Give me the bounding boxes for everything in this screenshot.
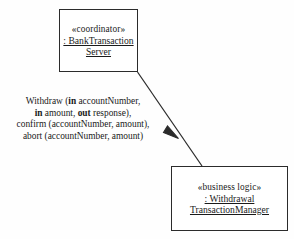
param-direction-out: out [78,108,91,118]
uml-collaboration-diagram: «coordinator» : BankTransaction Server «… [0,0,294,239]
instance-name-coordinator-line2: Server [86,46,111,57]
instance-name-coordinator-line1: : BankTransaction [63,35,133,46]
instance-name-business-logic-line1: : Withdrawal [205,193,255,204]
stereotype-label-business-logic: «business logic» [198,182,261,193]
stereotype-label-coordinator: «coordinator» [72,24,125,35]
message-line-abort: abort (accountNumber, amount) [4,131,162,143]
message-text-response: response), [91,108,132,118]
message-text-amount: amount, [43,108,78,118]
message-line-withdraw: Withdraw (in accountNumber, [4,96,162,108]
param-direction-in-2: in [35,108,43,118]
message-line-withdraw-cont: in amount, out response), [4,108,162,120]
message-text-withdraw-prefix: Withdraw ( [26,96,69,106]
message-line-confirm: confirm (accountNumber, amount), [4,119,162,131]
instance-name-business-logic-line2: TransactionManager [190,204,269,215]
uml-object-coordinator[interactable]: «coordinator» : BankTransaction Server [59,9,138,72]
uml-object-business-logic[interactable]: «business logic» : Withdrawal Transactio… [171,166,288,231]
param-direction-in: in [68,96,76,106]
message-label-group: Withdraw (in accountNumber, in amount, o… [4,96,162,142]
message-text-withdraw-suffix: accountNumber, [76,96,140,106]
